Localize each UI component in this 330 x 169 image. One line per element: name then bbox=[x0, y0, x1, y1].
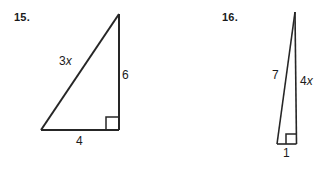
label-hypotenuse-15-coefficient: 3 bbox=[59, 54, 66, 68]
problem-16: 16. 7 4x 1 bbox=[165, 0, 330, 169]
right-angle-icon bbox=[106, 117, 119, 130]
label-vertical-leg-16: 4x bbox=[300, 75, 313, 87]
label-hypotenuse-16: 7 bbox=[272, 69, 279, 81]
label-horizontal-leg-15: 4 bbox=[76, 135, 83, 147]
triangle-16-hypotenuse bbox=[277, 12, 295, 144]
label-vertical-leg-16-coefficient: 4 bbox=[300, 74, 307, 88]
label-vertical-leg-16-variable: x bbox=[307, 74, 313, 88]
label-hypotenuse-15: 3x bbox=[59, 55, 72, 67]
worksheet-page: 15. 3x 6 4 16. 7 4x 1 bbox=[0, 0, 330, 169]
right-angle-icon bbox=[286, 134, 296, 144]
label-horizontal-leg-16: 1 bbox=[283, 147, 290, 159]
triangle-16-vertical-leg bbox=[295, 12, 297, 144]
problem-15: 15. 3x 6 4 bbox=[0, 0, 165, 169]
label-hypotenuse-15-variable: x bbox=[66, 54, 72, 68]
label-vertical-leg-15: 6 bbox=[122, 69, 129, 81]
triangle-15-hypotenuse bbox=[41, 14, 119, 130]
